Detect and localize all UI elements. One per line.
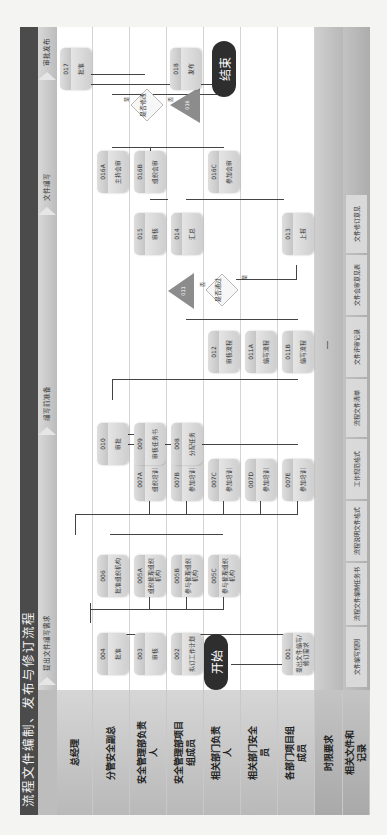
- step-007E[interactable]: 007E参加培训: [282, 459, 313, 501]
- offpage-connector-011: 011: [168, 273, 194, 309]
- step-007D[interactable]: 007D参加培训: [245, 459, 276, 501]
- record-revision-opinion: 文件修订意见: [346, 195, 367, 253]
- step-text: 拟订工作计划: [182, 633, 202, 675]
- step-018[interactable]: 018发布: [170, 48, 201, 90]
- step-005B[interactable]: 005B参与梳理组织机构: [171, 555, 202, 597]
- step-013[interactable]: 013上报: [282, 213, 313, 255]
- record-writing-rules: 文件编写规则: [346, 627, 367, 687]
- step-text: 参加培训: [256, 459, 276, 501]
- connector-line: [149, 501, 150, 515]
- step-017[interactable]: 017批准: [60, 48, 91, 90]
- lane-general-manager: [57, 27, 93, 690]
- step-code: 015: [134, 213, 145, 255]
- step-014[interactable]: 014汇总: [171, 213, 202, 255]
- step-007C[interactable]: 007C参加培训: [208, 459, 239, 501]
- step-016B[interactable]: 016B组织会审: [134, 151, 165, 193]
- step-text: 汇总: [182, 213, 202, 255]
- step-text: 上报: [293, 213, 313, 255]
- step-016A[interactable]: 016A主持会审: [97, 151, 128, 193]
- step-code: 007D: [245, 459, 256, 501]
- step-005A[interactable]: 005A组织梳理组织机构: [134, 555, 165, 597]
- step-005C[interactable]: 005C参与梳理组织机构: [208, 555, 239, 597]
- start-terminal: 开始: [204, 634, 228, 690]
- step-011A[interactable]: 011A编写流程: [245, 331, 276, 373]
- decision-pass[interactable]: 是否通过: [205, 273, 239, 307]
- connector-line: [260, 501, 261, 515]
- step-text: 批准: [108, 633, 128, 675]
- connector-line: [90, 603, 91, 623]
- row-label-docs: 相关文件和记录: [343, 690, 370, 815]
- step-003[interactable]: 003审核: [134, 633, 165, 675]
- step-code: 011B: [282, 331, 293, 373]
- step-code: 007A: [134, 459, 145, 501]
- record-flow-format: 流程说明文件格式: [346, 501, 367, 561]
- stage-header-writing: 文件编写: [38, 135, 57, 215]
- step-code: 003: [134, 633, 145, 675]
- connector-line: [149, 596, 150, 610]
- step-code: 016C: [208, 151, 219, 193]
- step-text: 参与梳理组织机构: [219, 555, 239, 597]
- step-text: 审核: [145, 633, 165, 675]
- step-009[interactable]: 009审核任务书: [134, 423, 165, 465]
- step-code: 010: [97, 423, 108, 465]
- step-code: 006: [97, 555, 108, 597]
- diamond-shape: [205, 273, 239, 307]
- step-text: 编写流程: [293, 331, 313, 373]
- decision-text: 是否通过: [214, 273, 222, 307]
- step-text: 主持会审: [108, 151, 128, 193]
- step-code: 001: [282, 633, 293, 675]
- stage-header-request: 提出文件编写需求: [38, 565, 57, 685]
- step-016C[interactable]: 016C参加会审: [208, 151, 239, 193]
- connector-line: [110, 534, 223, 535]
- lane-label-general-manager: 总经理: [57, 690, 93, 815]
- step-text: 编写流程: [256, 331, 276, 373]
- step-text: 批准: [71, 48, 91, 90]
- step-007A[interactable]: 007A组织培训: [134, 459, 165, 501]
- step-text: 审核任务书: [145, 423, 165, 465]
- step-text: 审批: [108, 423, 128, 465]
- step-text: 参加会审: [219, 151, 239, 193]
- step-015[interactable]: 015审核: [134, 213, 165, 255]
- step-text: 参加培训: [182, 459, 202, 501]
- connector-label: 016: [184, 87, 190, 123]
- connector-line: [296, 265, 297, 280]
- diamond-shape: [130, 88, 164, 122]
- end-label: 结束: [216, 57, 233, 81]
- lane-label-dept-safety-officer: 相关部门安全员: [241, 690, 278, 815]
- lane-label-dept-head: 相关部门负责人: [204, 690, 241, 815]
- step-text: 参加培训: [219, 459, 239, 501]
- connector-line: [75, 515, 76, 535]
- step-011B[interactable]: 011B编写流程: [282, 331, 313, 373]
- step-text: 组织培训: [145, 459, 165, 501]
- step-007B[interactable]: 007B参加培训: [171, 459, 202, 501]
- step-001[interactable]: 001提出文件编写/修订需求: [282, 633, 313, 675]
- connector-line: [186, 199, 284, 200]
- step-code: 004: [97, 633, 108, 675]
- decision-text: 是否修改: [139, 88, 147, 122]
- step-010[interactable]: 010审批: [97, 423, 128, 465]
- row-label-time: 时限要求: [315, 690, 343, 815]
- connector-line: [223, 501, 224, 515]
- step-code: 007C: [208, 459, 219, 501]
- step-012[interactable]: 012审核流程: [208, 331, 239, 373]
- step-004[interactable]: 004批准: [97, 633, 128, 675]
- lane-label-safety-dept-head: 安全管理部负责人: [130, 690, 167, 815]
- row-time: [315, 27, 343, 690]
- step-008[interactable]: 008分配任务: [171, 423, 202, 465]
- record-work-norm-format: 工作规范格式: [346, 439, 367, 499]
- connector-line: [90, 609, 224, 610]
- decision-yes-label: 是: [240, 275, 247, 280]
- connector-line: [112, 147, 224, 148]
- connector-line: [186, 319, 298, 320]
- decision-modify[interactable]: 是否修改: [130, 88, 164, 122]
- step-code: 016A: [97, 151, 108, 193]
- connector-label: 011: [180, 273, 186, 309]
- connector-line: [223, 596, 224, 610]
- lane-label-safety-project-member: 安全管理部项目组成员: [167, 690, 204, 815]
- step-code: 009: [134, 423, 145, 465]
- step-code: 007E: [282, 459, 293, 501]
- step-code: 013: [282, 213, 293, 255]
- offpage-connector-016: 016: [170, 87, 200, 123]
- step-002[interactable]: 002拟订工作计划: [171, 633, 202, 675]
- step-006[interactable]: 006批准组织机构: [97, 555, 128, 597]
